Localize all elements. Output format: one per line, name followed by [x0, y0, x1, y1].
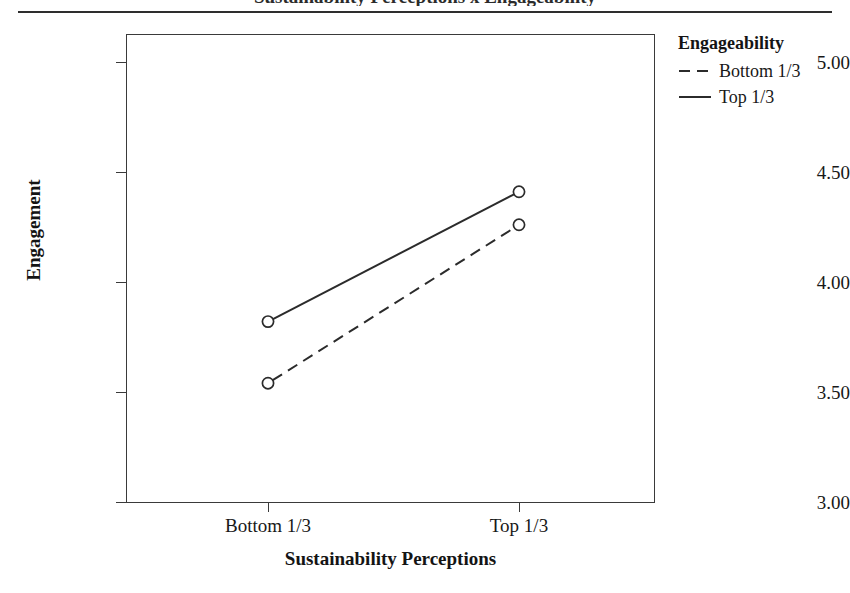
data-point-marker[interactable]	[262, 316, 273, 327]
legend-title: Engageability	[678, 33, 846, 54]
data-point-marker[interactable]	[513, 186, 524, 197]
line-chart-figure: 5.00 4.50 4.00 3.50 3.00 Bottom 1/3 Top …	[0, 0, 850, 593]
legend-item-bottom-third[interactable]: Bottom 1/3	[678, 58, 846, 84]
legend: Engageability Bottom 1/3 Top 1/3	[678, 33, 846, 110]
data-point-marker[interactable]	[262, 378, 273, 389]
series-line-segment	[273, 194, 514, 319]
data-point-marker[interactable]	[513, 219, 524, 230]
series-line-segment	[273, 228, 515, 380]
dashed-line-icon	[678, 64, 712, 78]
solid-line-icon	[678, 90, 712, 104]
series-top-third	[262, 186, 524, 327]
legend-label-top-third: Top 1/3	[719, 87, 774, 108]
legend-label-bottom-third: Bottom 1/3	[719, 61, 801, 82]
legend-item-top-third[interactable]: Top 1/3	[678, 84, 846, 110]
